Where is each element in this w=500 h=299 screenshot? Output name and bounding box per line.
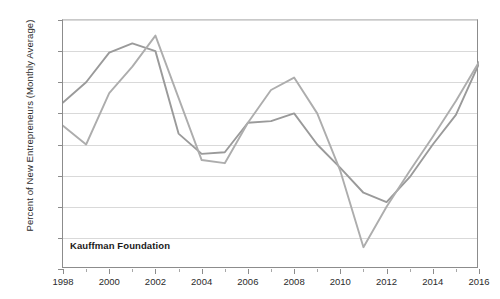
x-tick-label: 2008 [274,276,314,287]
x-tick-mark-minor [271,269,272,272]
series-line-2 [63,36,479,248]
x-tick-label: 2012 [367,276,407,287]
x-tick-mark [63,269,64,274]
x-tick-label: 2000 [89,276,129,287]
x-tick-mark [340,269,341,274]
x-tick-mark [155,269,156,274]
x-tick-label: 2010 [320,276,360,287]
plot-area: 86%84%82%80%78%76%74%72%70% 199820002002… [62,19,478,268]
y-axis-title: Percent of New Entrepreneurs (Monthly Av… [24,1,35,251]
x-tick-mark-minor [225,269,226,272]
x-tick-label: 2014 [413,276,453,287]
x-tick-label: 1998 [43,276,83,287]
x-tick-mark [387,269,388,274]
x-tick-mark-minor [132,269,133,272]
x-tick-mark-minor [317,269,318,272]
x-tick-label: 2004 [182,276,222,287]
x-tick-mark-minor [410,269,411,272]
x-tick-mark [294,269,295,274]
x-tick-label: 2002 [135,276,175,287]
x-tick-mark [202,269,203,274]
x-tick-mark-minor [456,269,457,272]
x-tick-mark-minor [179,269,180,272]
x-tick-label: 2006 [228,276,268,287]
x-tick-mark [248,269,249,274]
x-tick-mark [433,269,434,274]
series-lines [63,20,479,269]
x-tick-mark-minor [86,269,87,272]
chart-container: Percent of New Entrepreneurs (Monthly Av… [0,0,500,299]
watermark-label: Kauffman Foundation [70,240,170,251]
x-tick-mark [479,269,480,274]
series-line-1 [63,43,479,202]
x-tick-label: 2016 [459,276,499,287]
x-tick-mark [109,269,110,274]
x-tick-mark-minor [363,269,364,272]
